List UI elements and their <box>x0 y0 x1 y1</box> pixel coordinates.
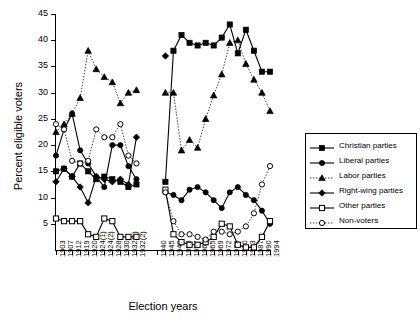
series-line <box>165 187 270 224</box>
data-point <box>251 48 256 53</box>
data-point <box>86 169 91 174</box>
legend-item[interactable]: Christian parties <box>309 138 413 153</box>
legend-item-label: Labor parties <box>335 171 386 180</box>
data-point <box>78 161 83 166</box>
data-point <box>195 184 200 189</box>
legend-item[interactable]: Right-wing parties <box>309 183 413 198</box>
data-point <box>267 69 272 74</box>
series-other-parties <box>53 187 272 250</box>
data-point <box>187 232 192 237</box>
data-point <box>171 232 176 237</box>
data-point <box>61 219 66 224</box>
legend-item[interactable]: Labor parties <box>309 168 413 183</box>
legend-marker-filled-triangle-icon <box>309 170 335 182</box>
data-point <box>53 169 58 174</box>
data-point <box>171 48 176 53</box>
data-point <box>162 53 169 60</box>
data-point <box>118 234 123 239</box>
legend-item-label: Other parties <box>335 201 385 210</box>
data-point <box>171 192 176 197</box>
data-point <box>259 89 266 95</box>
data-point <box>267 219 272 224</box>
data-point <box>69 158 74 163</box>
legend-item-label: Non-voters <box>335 216 378 225</box>
data-point <box>110 143 115 148</box>
data-point <box>110 219 115 224</box>
data-point <box>86 232 91 237</box>
data-point <box>243 192 248 197</box>
data-point <box>243 61 250 67</box>
data-point <box>109 79 116 85</box>
legend-marker-open-circle-icon <box>309 215 335 227</box>
data-point <box>94 234 99 239</box>
data-point <box>219 229 224 234</box>
series-line <box>56 51 136 132</box>
data-point <box>259 208 264 213</box>
data-point <box>235 51 240 56</box>
data-point <box>163 179 168 184</box>
data-point <box>78 148 83 153</box>
data-point <box>219 35 224 40</box>
data-point <box>243 224 248 229</box>
data-point <box>162 89 169 95</box>
data-point <box>86 158 91 163</box>
data-point <box>259 182 264 187</box>
data-point <box>126 163 131 168</box>
data-point <box>53 179 60 186</box>
data-point <box>251 198 256 203</box>
data-point <box>179 240 184 245</box>
data-point <box>243 27 248 32</box>
data-point <box>134 234 139 239</box>
data-point <box>251 211 256 216</box>
data-point <box>202 116 209 122</box>
legend-marker <box>319 145 324 150</box>
data-point <box>53 216 58 221</box>
data-point <box>133 87 140 93</box>
series-line <box>165 40 270 150</box>
data-point <box>61 127 66 132</box>
legend-item-label: Liberal parties <box>335 156 389 165</box>
series-right-wing-parties <box>53 53 169 206</box>
data-point <box>134 182 139 187</box>
data-point <box>235 229 240 234</box>
data-point <box>267 163 272 168</box>
legend-item[interactable]: Other parties <box>309 198 413 213</box>
data-point <box>195 242 200 247</box>
data-point <box>93 66 100 72</box>
data-point <box>219 221 224 226</box>
data-point <box>118 143 123 148</box>
data-point <box>78 219 83 224</box>
series-line <box>56 137 136 203</box>
data-point <box>227 22 232 27</box>
data-point <box>195 43 200 48</box>
data-point <box>133 134 140 141</box>
data-point <box>94 127 99 132</box>
data-point <box>102 135 107 140</box>
legend-item-label: Christian parties <box>335 141 397 150</box>
data-point <box>218 71 225 77</box>
data-point <box>179 232 184 237</box>
legend-marker-filled-square-icon <box>309 140 335 152</box>
chart-root: Percent eligible voters Election years 5… <box>0 0 420 322</box>
data-point <box>259 234 264 239</box>
data-point <box>195 234 200 239</box>
data-point <box>203 237 208 242</box>
data-point <box>227 224 232 229</box>
data-point <box>126 153 131 158</box>
data-point <box>187 187 192 192</box>
data-point <box>211 234 216 239</box>
legend-item[interactable]: Liberal parties <box>309 153 413 168</box>
data-point <box>251 245 256 250</box>
legend-marker <box>319 160 324 165</box>
data-point <box>211 43 216 48</box>
data-point <box>77 95 84 101</box>
legend-marker <box>319 189 326 196</box>
data-point <box>227 190 232 195</box>
legend-item[interactable]: Non-voters <box>309 213 413 228</box>
data-point <box>171 219 176 224</box>
data-point <box>53 153 58 158</box>
data-point <box>187 40 192 45</box>
data-point <box>179 198 184 203</box>
legend-marker-filled-diamond-icon <box>309 185 335 197</box>
data-point <box>53 122 58 127</box>
